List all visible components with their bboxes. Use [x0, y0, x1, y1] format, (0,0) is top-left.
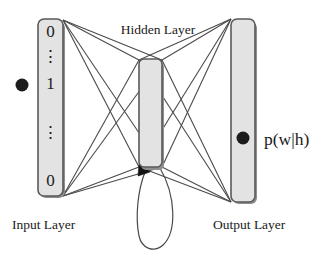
- input-cell-1: 1: [46, 74, 55, 93]
- recurrent-loop-path: [137, 168, 173, 249]
- connection-line: [162, 19, 231, 167]
- connection-line: [162, 60, 231, 202]
- hidden-layer-rect: [139, 59, 162, 167]
- hidden-layer-label: Hidden Layer: [121, 22, 196, 37]
- connection-line: [63, 20, 139, 167]
- output-node-dot: [237, 132, 250, 145]
- output-layer-label: Output Layer: [213, 217, 286, 232]
- self-recurrent-connection: [137, 164, 173, 249]
- input-cell-0: 0: [46, 22, 55, 41]
- output-probability-expression: p(w|h): [264, 129, 309, 149]
- output-layer-rect: [231, 19, 255, 202]
- connection-line: [162, 167, 231, 202]
- input-cell-0-last: 0: [46, 171, 55, 190]
- output-layer-box: [231, 19, 257, 204]
- input-cell-ellipsis-upper: ⋮: [42, 47, 59, 66]
- connection-line: [139, 167, 231, 202]
- input-layer-label: Input Layer: [12, 217, 76, 232]
- diagram-canvas: 0 ⋮ 1 ⋮ 0 Hidden Layer p(w|h) Input Laye…: [0, 0, 325, 267]
- input-cell-ellipsis-lower: ⋮: [42, 123, 59, 142]
- connection-line: [63, 60, 139, 196]
- input-layer-rect: [38, 19, 63, 196]
- neural-network-diagram: 0 ⋮ 1 ⋮ 0 Hidden Layer p(w|h) Input Laye…: [0, 0, 325, 267]
- hidden-layer-box: [139, 59, 164, 170]
- connection-line: [63, 167, 139, 196]
- input-node-dot: [16, 79, 29, 92]
